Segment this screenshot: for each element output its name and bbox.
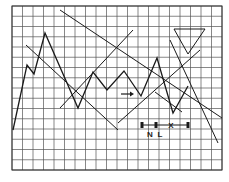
measurement-tick bbox=[141, 122, 144, 128]
measurement-labels: NLX bbox=[147, 121, 174, 139]
trend-line bbox=[26, 45, 118, 130]
measurement-label-l: L bbox=[158, 130, 163, 139]
graph-paper-grid bbox=[12, 6, 222, 170]
measurement-marker bbox=[141, 122, 190, 128]
trend-lines bbox=[26, 10, 222, 143]
measurement-tick bbox=[155, 122, 158, 128]
price-zigzag-line bbox=[13, 33, 188, 130]
measurement-label-n: N bbox=[147, 130, 153, 139]
inverted-triangle-pattern bbox=[174, 29, 205, 54]
measurement-label-x: X bbox=[168, 121, 174, 130]
price-chart: NLX bbox=[0, 0, 229, 182]
trend-line bbox=[60, 30, 133, 108]
measurement-tick bbox=[187, 122, 190, 128]
